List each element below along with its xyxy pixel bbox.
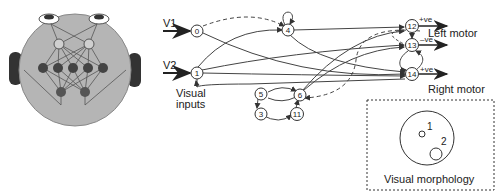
node-4: 4 bbox=[282, 24, 294, 36]
svg-text:0: 0 bbox=[195, 27, 200, 36]
sign-12: +ve bbox=[419, 15, 433, 24]
v2-label: V2 bbox=[163, 59, 176, 71]
diagram-canvas: 0 1 4 5 6 3 11 12 bbox=[0, 0, 498, 196]
left-motor-label: Left motor bbox=[428, 27, 478, 39]
receptor-1 bbox=[419, 131, 425, 137]
sign-14: +ve bbox=[420, 65, 434, 74]
receptor-1-label: 1 bbox=[427, 121, 433, 132]
node-3: 3 bbox=[255, 108, 267, 120]
node-1: 1 bbox=[191, 67, 203, 79]
robot-hidden-node bbox=[68, 63, 78, 73]
node-5: 5 bbox=[255, 88, 267, 100]
robot-output-node bbox=[80, 87, 90, 97]
svg-text:12: 12 bbox=[408, 22, 417, 31]
robot-hidden-node bbox=[53, 63, 63, 73]
robot-input-node bbox=[54, 39, 64, 49]
receptor-2-label: 2 bbox=[441, 136, 447, 147]
node-13: 13 bbox=[406, 39, 419, 52]
node-0: 0 bbox=[191, 25, 203, 37]
svg-text:11: 11 bbox=[293, 110, 302, 119]
node-11: 11 bbox=[291, 108, 304, 121]
network-diagram: 0 1 4 5 6 3 11 12 bbox=[163, 12, 485, 120]
svg-text:4: 4 bbox=[286, 26, 291, 35]
robot-hidden-node bbox=[98, 63, 108, 73]
robot-hidden-node bbox=[38, 63, 48, 73]
right-motor-label: Right motor bbox=[428, 83, 485, 95]
robot-hidden-node bbox=[83, 63, 93, 73]
svg-text:14: 14 bbox=[408, 70, 417, 79]
svg-text:3: 3 bbox=[259, 110, 264, 119]
svg-text:6: 6 bbox=[298, 91, 303, 100]
svg-text:5: 5 bbox=[259, 90, 264, 99]
visual-morphology-panel: 1 2 Visual morphology bbox=[367, 100, 494, 190]
robot-output-node bbox=[56, 87, 66, 97]
receptor-2 bbox=[430, 148, 442, 160]
visual-morphology-title: Visual morphology bbox=[384, 173, 475, 185]
node-12: 12 bbox=[406, 20, 419, 33]
svg-text:1: 1 bbox=[195, 69, 200, 78]
visual-inputs-label-2: inputs bbox=[176, 98, 206, 110]
v1-label: V1 bbox=[163, 17, 176, 29]
svg-text:13: 13 bbox=[408, 41, 417, 50]
robot-input-node bbox=[84, 39, 94, 49]
node-14: 14 bbox=[406, 68, 419, 81]
node-6: 6 bbox=[294, 89, 306, 101]
robot-illustration bbox=[9, 14, 141, 126]
